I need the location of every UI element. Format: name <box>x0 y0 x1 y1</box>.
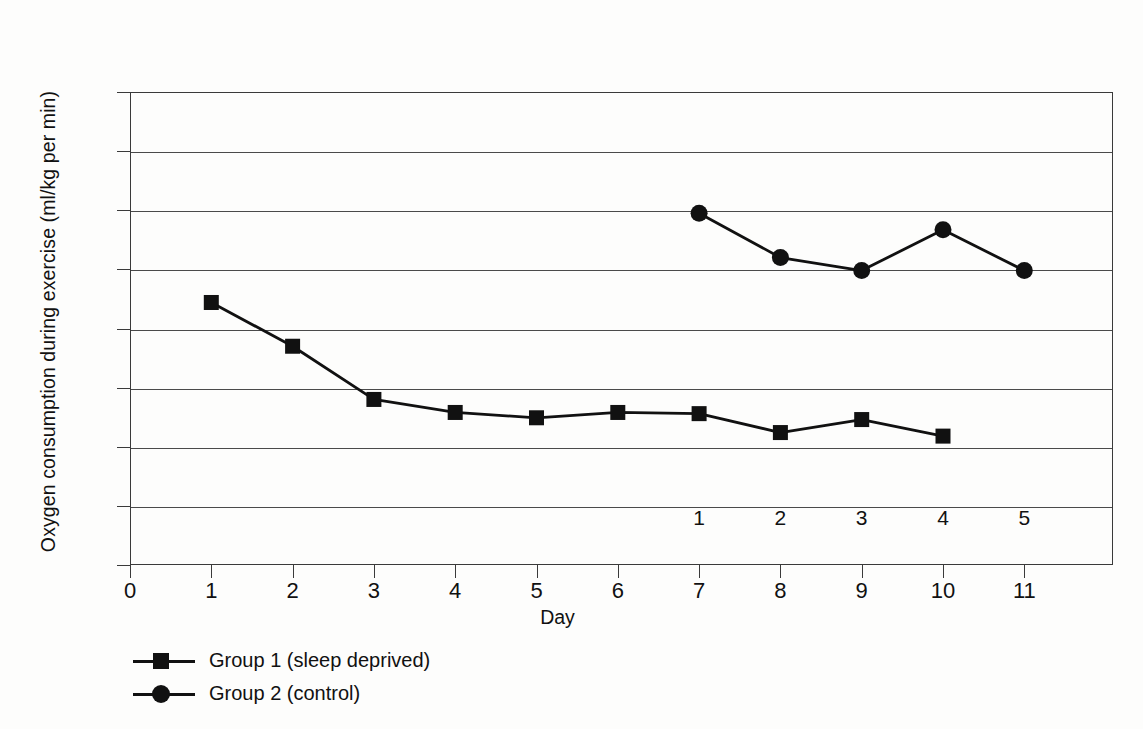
y-tick-mark <box>117 329 131 330</box>
gridline <box>131 448 1112 449</box>
x-tick-label: 9 <box>832 578 892 604</box>
x-tick-label-secondary: 2 <box>750 506 810 530</box>
legend-label-group-2: Group 2 (control) <box>209 682 360 705</box>
x-tick-label-secondary: 3 <box>832 506 892 530</box>
y-axis-title: Oxygen consumption during exercise (ml/k… <box>37 62 60 582</box>
x-tick-mark <box>130 565 131 578</box>
x-tick-label: 10 <box>913 578 973 604</box>
legend-item-group-2[interactable]: Group 2 (control) <box>133 677 430 710</box>
y-tick-mark <box>117 388 131 389</box>
x-tick-mark <box>862 565 863 578</box>
x-tick-mark <box>780 565 781 578</box>
x-tick-mark <box>293 565 294 578</box>
plot-area <box>130 92 1113 565</box>
gridline <box>131 330 1112 331</box>
x-tick-mark <box>943 565 944 578</box>
x-tick-mark <box>374 565 375 578</box>
y-tick-mark <box>117 565 131 566</box>
x-tick-mark <box>537 565 538 578</box>
x-tick-label: 7 <box>669 578 729 604</box>
gridline <box>131 152 1112 153</box>
x-tick-label: 2 <box>263 578 323 604</box>
x-tick-mark <box>618 565 619 578</box>
chart-legend: Group 1 (sleep deprived) Group 2 (contro… <box>133 644 430 710</box>
chart-canvas: Oxygen consumption during exercise (ml/k… <box>0 0 1143 729</box>
x-tick-label: 8 <box>750 578 810 604</box>
x-tick-mark <box>455 565 456 578</box>
x-tick-mark <box>211 565 212 578</box>
x-tick-label: 0 <box>100 578 160 604</box>
x-tick-label: 3 <box>344 578 404 604</box>
x-tick-label-secondary: 4 <box>913 506 973 530</box>
y-tick-mark <box>117 269 131 270</box>
y-tick-mark <box>117 447 131 448</box>
x-tick-label-secondary: 1 <box>669 506 729 530</box>
x-tick-mark <box>699 565 700 578</box>
x-tick-label: 5 <box>507 578 567 604</box>
circle-marker-icon <box>133 681 195 707</box>
square-marker-icon <box>133 648 195 674</box>
x-tick-label: 4 <box>425 578 485 604</box>
gridline <box>131 270 1112 271</box>
y-tick-mark <box>117 92 131 93</box>
gridline <box>131 389 1112 390</box>
legend-item-group-1[interactable]: Group 1 (sleep deprived) <box>133 644 430 677</box>
y-tick-mark <box>117 506 131 507</box>
y-tick-mark <box>117 151 131 152</box>
gridline <box>131 211 1112 212</box>
y-tick-mark <box>117 210 131 211</box>
legend-label-group-1: Group 1 (sleep deprived) <box>209 649 430 672</box>
x-tick-mark <box>1024 565 1025 578</box>
x-axis-title-text: Day <box>540 606 575 629</box>
x-tick-label: 11 <box>994 578 1054 604</box>
x-axis-title: Day <box>0 606 1143 629</box>
x-tick-label: 6 <box>588 578 648 604</box>
x-tick-label: 1 <box>181 578 241 604</box>
x-tick-label-secondary: 5 <box>994 506 1054 530</box>
